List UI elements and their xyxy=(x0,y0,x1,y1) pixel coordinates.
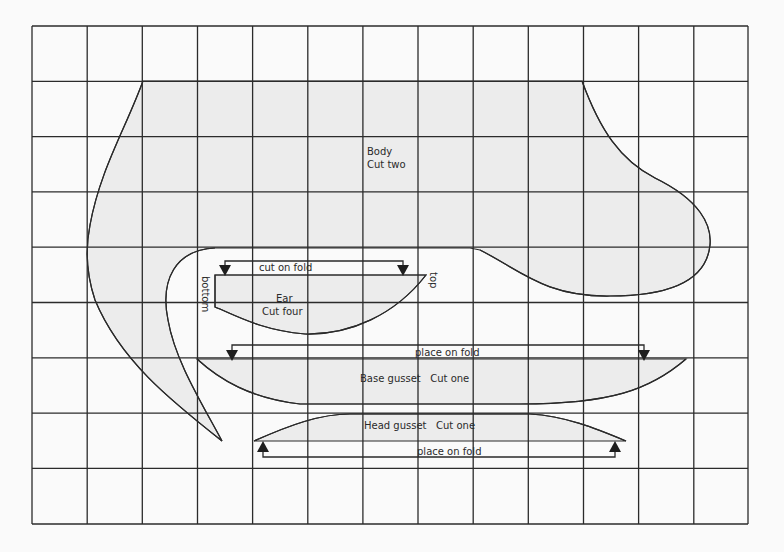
ear-piece xyxy=(215,275,426,334)
body-name-label: Body xyxy=(367,146,392,157)
arrow-up-icon xyxy=(609,441,621,452)
ear-top-label: top xyxy=(428,272,439,288)
arrow-down-icon xyxy=(397,265,409,276)
arrow-up-icon xyxy=(257,441,269,452)
base-gusset-fold-label: place on fold xyxy=(415,347,479,358)
ear-instruction-label: Cut four xyxy=(262,306,303,317)
body-instruction-label: Cut two xyxy=(367,159,406,170)
head-gusset-fold-label: place on fold xyxy=(417,446,481,457)
head-gusset-label: Head gusset Cut one xyxy=(364,420,475,431)
ear-fold-bracket xyxy=(219,261,409,276)
ear-bottom-label: bottom xyxy=(200,276,211,312)
base-gusset-label: Base gusset Cut one xyxy=(360,373,469,384)
arrow-down-icon xyxy=(219,265,231,276)
ear-fold-label: cut on fold xyxy=(259,262,312,273)
ear-name-label: Ear xyxy=(276,293,293,304)
pattern-canvas: Body Cut two cut on fold Ear Cut four bo… xyxy=(0,0,784,552)
